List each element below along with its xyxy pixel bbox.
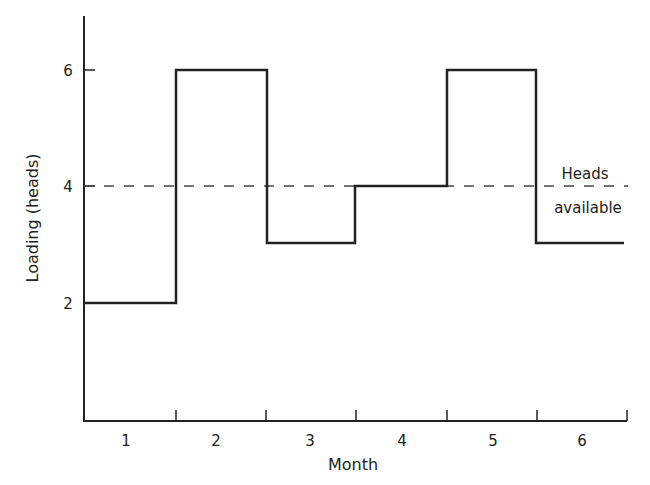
x-tick-label: 1 — [121, 432, 131, 450]
x-tick-label: 4 — [397, 432, 407, 450]
heads-available-label: available — [554, 199, 622, 217]
y-axis-title: Loading (heads) — [23, 154, 42, 283]
x-tick-label: 6 — [577, 432, 587, 450]
x-tick-label: 2 — [211, 432, 221, 450]
heads-available-label: Heads — [561, 165, 608, 183]
x-tick-label: 3 — [305, 432, 315, 450]
y-tick-label: 4 — [63, 178, 73, 196]
y-tick-label: 6 — [63, 62, 73, 80]
x-axis-title: Month — [328, 455, 378, 474]
x-tick-label: 5 — [488, 432, 498, 450]
step-chart: 6 4 2 1 2 3 4 5 6 Month Loading (heads) … — [0, 0, 650, 485]
y-tick-label: 2 — [63, 295, 73, 313]
